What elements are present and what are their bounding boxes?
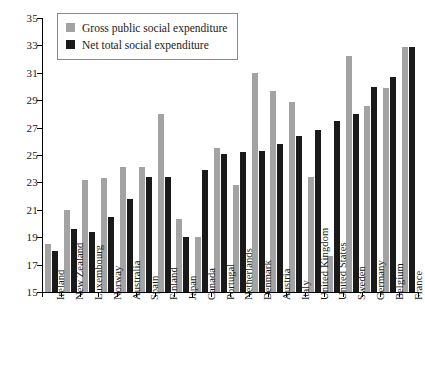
bar-gross (158, 114, 164, 292)
x-axis-tick (192, 292, 193, 297)
x-axis-tick (211, 292, 212, 297)
legend-swatch-gross-icon (66, 23, 75, 32)
x-axis-tick (286, 292, 287, 297)
chart-legend: Gross public social expenditure Net tota… (57, 13, 238, 60)
y-axis-tick-label: 35 (27, 12, 38, 24)
x-axis-tick (42, 292, 43, 297)
bar-net (390, 77, 396, 292)
bar-chart: 1517192123252729313335 IrelandNew Zealan… (0, 0, 425, 376)
x-axis-tick (117, 292, 118, 297)
x-axis-tick (80, 292, 81, 297)
x-axis-tick (230, 292, 231, 297)
bar-gross (289, 102, 295, 292)
bar-group (380, 18, 399, 292)
y-axis-tick-label: 25 (27, 149, 38, 161)
x-axis-label: United Kingdom (319, 228, 330, 300)
bar-group (268, 18, 287, 292)
y-axis-tick-label: 31 (27, 67, 38, 79)
legend-label-net: Net total social expenditure (82, 39, 209, 51)
bar-group (399, 18, 418, 292)
x-axis-tick (418, 292, 419, 297)
legend-swatch-net-icon (66, 40, 75, 49)
x-axis-tick (324, 292, 325, 297)
x-axis-tick (399, 292, 400, 297)
x-axis-tick (380, 292, 381, 297)
bar-net (296, 136, 302, 292)
x-axis-tick (362, 292, 363, 297)
y-axis-tick-label: 29 (27, 94, 38, 106)
x-axis-tick (268, 292, 269, 297)
bar-group (362, 18, 381, 292)
y-axis-tick-label: 19 (27, 231, 38, 243)
y-axis-tick-label: 17 (27, 259, 38, 271)
bar-gross (364, 106, 370, 292)
legend-item-net: Net total social expenditure (66, 36, 227, 53)
x-axis-tick (98, 292, 99, 297)
y-axis-tick-label: 21 (27, 204, 38, 216)
x-axis-tick (343, 292, 344, 297)
x-axis-tick (305, 292, 306, 297)
bar-gross (308, 177, 314, 292)
x-axis-tick (155, 292, 156, 297)
bar-group (286, 18, 305, 292)
bar-gross (402, 47, 408, 292)
x-axis-label: Italy (300, 280, 311, 300)
bar-net (409, 47, 415, 292)
x-axis-tick (249, 292, 250, 297)
x-axis-tick (174, 292, 175, 297)
x-axis-tick (61, 292, 62, 297)
y-axis-tick-label: 33 (27, 39, 38, 51)
y-axis-tick-label: 15 (27, 286, 38, 298)
y-axis-tick-label: 27 (27, 122, 38, 134)
x-axis-tick (136, 292, 137, 297)
bar-gross (45, 244, 51, 292)
legend-item-gross: Gross public social expenditure (66, 19, 227, 36)
y-axis-tick-label: 23 (27, 176, 38, 188)
legend-label-gross: Gross public social expenditure (82, 22, 227, 34)
